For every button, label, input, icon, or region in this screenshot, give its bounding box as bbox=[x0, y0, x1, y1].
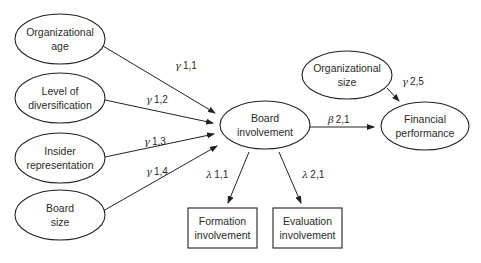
svg-text:Insider: Insider bbox=[44, 145, 76, 157]
label-g14: γ1,4 bbox=[146, 166, 168, 177]
svg-text:involvement: involvement bbox=[279, 229, 335, 241]
label-b21: β2,1 bbox=[327, 114, 350, 125]
diagram-canvas: γ1,1 γ1,2 γ1,3 γ1,4 β2,1 γ2,5 λ1,1 λ2,1 … bbox=[0, 0, 481, 263]
edge-g14 bbox=[103, 146, 217, 211]
svg-text:performance: performance bbox=[396, 127, 455, 139]
node-insider-representation: Insider representation bbox=[15, 133, 105, 183]
svg-text:involvement: involvement bbox=[237, 126, 293, 138]
svg-text:involvement: involvement bbox=[194, 229, 250, 241]
svg-text:Board: Board bbox=[46, 202, 74, 214]
label-g13: γ1,3 bbox=[144, 136, 166, 147]
node-formation-involvement: Formation involvement bbox=[188, 208, 257, 248]
node-board-size: Board size bbox=[15, 190, 105, 240]
svg-text:Financial: Financial bbox=[404, 113, 446, 125]
label-l21: λ2,1 bbox=[301, 169, 325, 180]
svg-text:Board: Board bbox=[251, 112, 279, 124]
node-organizational-size: Organizational size bbox=[302, 51, 392, 99]
node-organizational-age: Organizational age bbox=[15, 14, 105, 64]
svg-text:size: size bbox=[51, 216, 70, 228]
svg-text:Organizational: Organizational bbox=[313, 62, 381, 74]
label-g11: γ1,1 bbox=[175, 60, 197, 71]
label-g25: γ2,5 bbox=[402, 76, 424, 87]
svg-text:Organizational: Organizational bbox=[26, 26, 94, 38]
node-financial-performance: Financial performance bbox=[381, 102, 469, 150]
svg-text:Evaluation: Evaluation bbox=[283, 215, 332, 227]
svg-text:size: size bbox=[338, 76, 357, 88]
svg-text:Level of: Level of bbox=[42, 85, 79, 97]
node-evaluation-involvement: Evaluation involvement bbox=[273, 208, 342, 248]
svg-text:Formation: Formation bbox=[199, 215, 246, 227]
label-g12: γ1,2 bbox=[146, 94, 168, 105]
svg-text:diversification: diversification bbox=[28, 99, 92, 111]
label-l11: λ1,1 bbox=[205, 169, 229, 180]
svg-text:representation: representation bbox=[26, 159, 93, 171]
node-board-involvement: Board involvement bbox=[220, 101, 310, 149]
edge-l21 bbox=[279, 152, 301, 203]
svg-text:age: age bbox=[51, 40, 69, 52]
edge-g25 bbox=[387, 88, 399, 101]
sem-diagram: γ1,1 γ1,2 γ1,3 γ1,4 β2,1 γ2,5 λ1,1 λ2,1 … bbox=[0, 0, 481, 263]
edge-l11 bbox=[228, 152, 249, 203]
node-level-of-diversification: Level of diversification bbox=[15, 73, 105, 123]
